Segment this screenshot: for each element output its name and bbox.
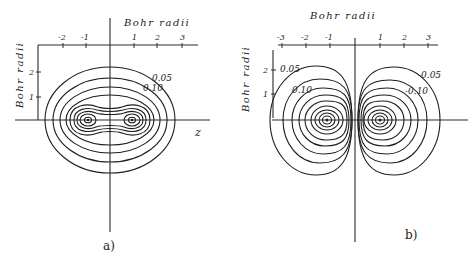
panel-a-label: a) [103, 239, 115, 253]
panel-b-side-axis-title: Bohr radii [240, 46, 251, 113]
x-tick-label: -1 [325, 33, 333, 42]
panel-b: Bohr radii Bohr radii -3 -2 -1 1 2 3 2 1 [240, 10, 468, 242]
x-tick-label: -2 [58, 33, 66, 42]
panel-b-y-ticks: 2 1 [262, 66, 276, 99]
nucleus-marker [379, 119, 382, 122]
contour-label: 0.05 [280, 64, 300, 74]
nucleus-marker [131, 119, 133, 121]
panel-a-side-axis-title: Bohr radii [14, 42, 25, 109]
x-tick-label: 3 [426, 33, 431, 42]
panel-a: Bohr radii Bohr radii -2 -1 1 2 3 2 [14, 17, 210, 253]
contour-label: -0.10 [405, 86, 428, 96]
y-tick-label: 2 [28, 68, 34, 77]
panel-a-x-ticks: -2 -1 1 2 3 [58, 33, 185, 48]
x-tick-label: 2 [401, 33, 407, 42]
z-axis-label: z [194, 126, 201, 139]
contour-label: 0.05 [152, 73, 172, 83]
y-tick-label: 2 [262, 66, 268, 75]
x-tick-label: 3 [180, 33, 185, 42]
contour-label: 0.10 [292, 85, 312, 95]
panel-a-y-ticks: 2 1 [28, 68, 41, 102]
panel-b-right-lobe [358, 67, 440, 175]
y-tick-label: 1 [29, 93, 34, 102]
x-tick-label: -3 [277, 33, 285, 42]
x-tick-label: -2 [301, 33, 309, 42]
panel-b-x-ticks: -3 -2 -1 1 2 3 [277, 33, 431, 48]
contour-label: 0.10 [143, 83, 163, 93]
x-tick-label: -1 [81, 33, 89, 42]
nucleus-marker [87, 119, 89, 121]
x-tick-label: 1 [378, 33, 383, 42]
x-tick-label: 2 [154, 33, 160, 42]
y-tick-label: 1 [263, 90, 268, 99]
nucleus-marker [326, 119, 329, 122]
panel-a-top-axis-title: Bohr radii [123, 17, 190, 28]
x-tick-label: 1 [132, 33, 137, 42]
panel-b-top-axis-title: Bohr radii [309, 10, 376, 21]
orbital-contour-figure: Bohr radii Bohr radii -2 -1 1 2 3 2 [0, 0, 476, 265]
panel-b-label: b) [405, 228, 417, 242]
contour-label: -0.05 [418, 70, 441, 80]
